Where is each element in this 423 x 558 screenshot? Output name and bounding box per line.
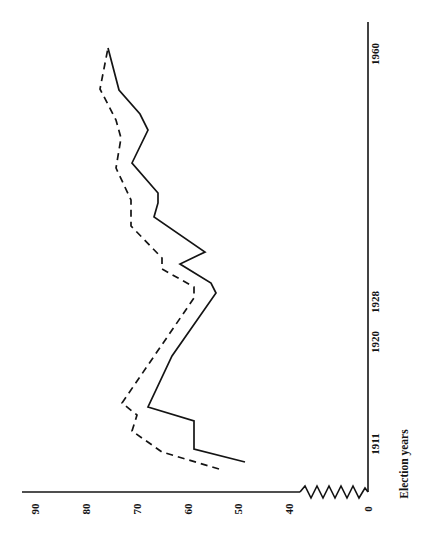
axis-break-zigzag [300, 486, 368, 498]
value-tick-label-0: 0 [362, 502, 374, 516]
year-tick-label-1920: 1920 [369, 327, 381, 357]
series-solid-line [108, 48, 245, 462]
series-dashed-line [100, 48, 219, 469]
value-tick-label-70: 70 [131, 501, 143, 517]
value-tick-label-60: 60 [182, 501, 194, 517]
value-tick-label-90: 90 [29, 501, 41, 517]
chart-plot-area [0, 0, 423, 558]
chart-figure: 90 80 70 60 50 40 0 1911 1920 1928 1960 … [0, 0, 423, 558]
year-tick-label-1928: 1928 [369, 287, 381, 317]
year-tick-label-1911: 1911 [369, 429, 381, 459]
x-axis-title: Election years [398, 429, 410, 499]
value-tick-label-40: 40 [283, 501, 295, 517]
year-tick-label-1960: 1960 [369, 39, 381, 69]
value-tick-label-80: 80 [80, 501, 92, 517]
value-tick-label-50: 50 [232, 501, 244, 517]
